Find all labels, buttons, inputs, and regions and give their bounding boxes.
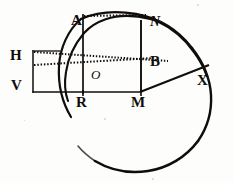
circle-arc-top	[81, 12, 192, 48]
label-point-O: O	[91, 68, 100, 81]
circle-arc-bottom-left	[78, 146, 95, 161]
label-point-R: R	[76, 95, 87, 110]
label-point-A: A	[71, 13, 82, 28]
paper-speckle	[197, 4, 199, 6]
label-point-B: B	[150, 54, 160, 69]
circle-arc-bottom	[95, 141, 198, 172]
label-point-X: X	[197, 73, 208, 88]
arc-A-to-N	[84, 16, 157, 33]
label-point-V: V	[11, 78, 22, 93]
arc-through-rectangle	[65, 33, 84, 101]
label-point-H: H	[10, 48, 22, 63]
label-point-M: M	[131, 95, 145, 110]
paper-speckle	[104, 118, 106, 120]
label-point-N: N	[150, 15, 160, 29]
figure-canvas	[0, 0, 234, 183]
paper-speckle	[152, 178, 154, 180]
geometric-figure: A N H B O V X R M	[0, 0, 234, 183]
circle-chord-through-rect	[65, 33, 84, 101]
dotted-line-upper-HB	[34, 52, 168, 61]
quadrant-arc-ANX	[84, 16, 207, 76]
dotted-line-lower-O	[34, 58, 153, 65]
paper-speckle	[24, 120, 25, 121]
